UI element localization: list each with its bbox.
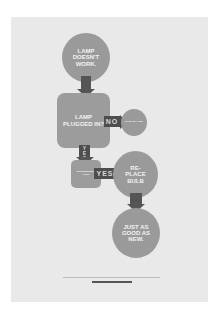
arrow-down-icon xyxy=(81,76,91,90)
plug-in-lamp-node: PLUG IN LAMP xyxy=(121,109,147,136)
no-arrow-label: NO xyxy=(104,116,120,127)
arrow-down-icon xyxy=(130,193,142,205)
footer-url-text: www.example.com xyxy=(92,281,132,283)
start-node: LAMP DOESN'T WORK. xyxy=(62,33,110,82)
question-lamp-plugged-in: LAMP PLUGGED IN? xyxy=(57,93,110,148)
replace-bulb-node: RE-PLACE BULB xyxy=(113,151,158,198)
end-node: JUST AS GOOD AS NEW. xyxy=(112,208,160,258)
footer-divider xyxy=(63,277,160,278)
